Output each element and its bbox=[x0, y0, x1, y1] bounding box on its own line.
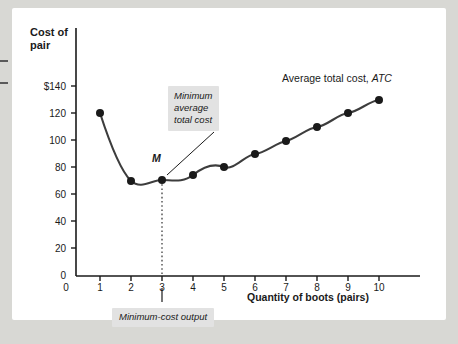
x-tick-label-7: 7 bbox=[276, 282, 296, 293]
y-axis-title-line2: pair bbox=[30, 39, 50, 51]
y-tick-label-0: 0 bbox=[22, 270, 66, 281]
y-tick-label-40: 40 bbox=[22, 216, 66, 227]
y-tick-label-20: 20 bbox=[22, 243, 66, 254]
y-tick-label-120: 120 bbox=[22, 108, 66, 119]
x-tick-label-5: 5 bbox=[214, 282, 234, 293]
y-tick-label-100: 100 bbox=[22, 135, 66, 146]
minimum-cost-output-callout: Minimum-cost output bbox=[112, 308, 214, 327]
y-axis-title-line1: Cost of bbox=[30, 26, 68, 38]
x-tick-label-1: 1 bbox=[90, 282, 110, 293]
x-tick-label-9: 9 bbox=[338, 282, 358, 293]
curve-label-italic: ATC bbox=[372, 72, 392, 84]
y-tick-label-140: $140 bbox=[22, 81, 66, 92]
callout-leader-line bbox=[167, 132, 214, 175]
atc-data-points bbox=[96, 96, 383, 185]
curve-label-prefix: Average total cost, bbox=[282, 72, 372, 84]
y-axis-title: Cost of pair bbox=[30, 26, 68, 52]
callout-line-3: total cost bbox=[174, 114, 212, 125]
curve-label-atc: Average total cost, ATC bbox=[282, 72, 392, 84]
figure-container: Cost of pair Quantity of boots (pairs) $… bbox=[0, 0, 458, 344]
y-tick-label-80: 80 bbox=[22, 162, 66, 173]
x-tick-label-4: 4 bbox=[183, 282, 203, 293]
x-tick-label-2: 2 bbox=[121, 282, 141, 293]
callout-line-2: average bbox=[174, 102, 208, 113]
x-tick-label-6: 6 bbox=[245, 282, 265, 293]
x-tick-label-8: 8 bbox=[307, 282, 327, 293]
callout-line-1: Minimum bbox=[174, 90, 213, 101]
minimum-average-total-cost-callout: Minimum average total cost bbox=[168, 86, 219, 131]
x-tick-label-3: 3 bbox=[152, 282, 172, 293]
minimum-point-label: M bbox=[152, 152, 161, 164]
x-tick-label-0: 0 bbox=[56, 282, 76, 293]
y-tick-label-60: 60 bbox=[22, 189, 66, 200]
x-tick-label-10: 10 bbox=[369, 282, 389, 293]
atc-curve bbox=[100, 100, 379, 185]
